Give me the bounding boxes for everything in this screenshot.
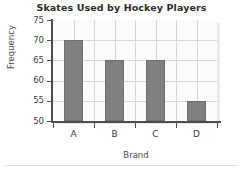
gridline-vertical (135, 20, 136, 121)
y-tick-mark (47, 81, 52, 82)
x-axis-line (51, 121, 221, 123)
x-tick-mark (94, 123, 95, 128)
y-tick-label: 60 (22, 76, 44, 85)
y-tick-label: 55 (22, 96, 44, 105)
bar-c (146, 60, 166, 121)
footer-divider (4, 165, 238, 166)
y-tick-label: 70 (22, 36, 44, 45)
plot-area (53, 20, 217, 121)
x-tick-mark (135, 123, 136, 128)
x-axis-title: Brand (52, 150, 220, 160)
gridline-vertical (94, 20, 95, 121)
bar-a (64, 40, 84, 121)
chart-title: Skates Used by Hockey Players (0, 2, 243, 13)
y-tick-mark (47, 20, 52, 21)
x-tick-mark (217, 123, 218, 128)
x-tick-mark (53, 123, 54, 128)
chart-figure: Skates Used by Hockey Players Frequency … (0, 0, 243, 170)
y-tick-mark (47, 121, 52, 122)
bar-b (105, 60, 125, 121)
bar-d (187, 101, 207, 121)
x-tick-label-d: D (180, 130, 214, 139)
y-tick-label: 50 (22, 117, 44, 126)
x-tick-label-a: A (57, 130, 91, 139)
y-tick-label: 65 (22, 56, 44, 65)
x-tick-mark (176, 123, 177, 128)
y-tick-label: 75 (22, 16, 44, 25)
y-axis-title: Frequency (6, 12, 16, 82)
y-tick-mark (47, 101, 52, 102)
x-tick-label-b: B (98, 130, 132, 139)
y-tick-mark (47, 40, 52, 41)
x-tick-label-c: C (139, 130, 173, 139)
y-axis-line (51, 19, 53, 122)
y-tick-mark (47, 60, 52, 61)
gridline-vertical (176, 20, 177, 121)
